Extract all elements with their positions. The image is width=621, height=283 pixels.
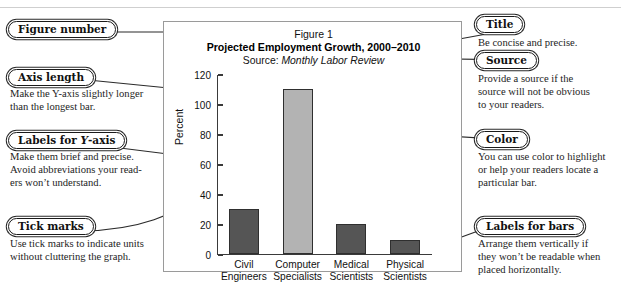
- callout-labels-y-post: -axis: [88, 134, 115, 146]
- y-tick-label: 40: [200, 190, 211, 201]
- note-labels-for-bars: Arrange them vertically if they won’t be…: [478, 237, 620, 277]
- y-tick-label: 100: [194, 100, 211, 111]
- note-labels-for-y-axis: Make them brief and precise. Avoid abbre…: [10, 150, 166, 190]
- callout-labels-for-y-axis[interactable]: Labels for Y-axis: [8, 132, 125, 149]
- note-title: Be concise and precise.: [478, 36, 618, 49]
- callout-figure-number[interactable]: Figure number: [8, 21, 116, 38]
- callout-tick-marks[interactable]: Tick marks: [8, 218, 94, 235]
- note-color: You can use color to highlight or help y…: [478, 150, 621, 190]
- x-axis-label: Civil Engineers: [217, 259, 271, 283]
- note-source: Provide a source if the source will not …: [478, 72, 618, 112]
- y-tick-mark: [218, 164, 223, 165]
- x-axis-label: Physical Scientists: [378, 259, 432, 283]
- y-tick-mark: [218, 104, 223, 105]
- callout-axis-length[interactable]: Axis length: [8, 69, 94, 86]
- figure-panel: Figure 1 Projected Employment Growth, 20…: [163, 21, 462, 272]
- bar-physical-scientists[interactable]: [390, 240, 420, 254]
- note-axis-length: Make the Y-axis slightly longer than the…: [10, 87, 160, 113]
- y-tick-label: 20: [200, 220, 211, 231]
- y-axis-title: Percent: [173, 109, 185, 145]
- y-tick-mark: [218, 74, 223, 75]
- bar-computer-specialists[interactable]: [283, 89, 313, 254]
- bar-chart-plot-area: Percent 020406080100120 Civil EngineersC…: [217, 75, 432, 255]
- callout-color[interactable]: Color: [476, 131, 528, 148]
- y-tick-mark: [218, 194, 223, 195]
- bar-medical-scientists[interactable]: [336, 224, 366, 254]
- bar-civil-engineers[interactable]: [229, 209, 259, 254]
- callout-title[interactable]: Title: [476, 16, 523, 33]
- figure-title: Projected Employment Growth, 2000–2010: [164, 41, 463, 53]
- x-axis-label: Medical Scientists: [325, 259, 379, 283]
- y-tick-label: 120: [194, 70, 211, 81]
- y-tick-label: 0: [205, 250, 211, 261]
- figure-number-text: Figure 1: [164, 28, 463, 40]
- note-tick-marks: Use tick marks to indicate units without…: [10, 237, 170, 263]
- y-tick-mark: [218, 134, 223, 135]
- top-divider-rule: [0, 7, 621, 8]
- y-tick-label: 60: [200, 160, 211, 171]
- figure-annotation-diagram: Figure number Axis length Make the Y-axi…: [0, 0, 621, 283]
- y-tick-mark: [218, 224, 223, 225]
- figure-source: Source: Monthly Labor Review: [164, 55, 463, 66]
- figure-source-name: Monthly Labor Review: [281, 55, 384, 66]
- callout-labels-for-bars[interactable]: Labels for bars: [476, 218, 584, 235]
- callout-labels-y-italic: Y: [80, 134, 88, 146]
- callout-labels-y-pre: Labels for: [18, 134, 80, 146]
- x-axis-line: [217, 254, 432, 255]
- y-tick-label: 80: [200, 130, 211, 141]
- y-tick-mark: [218, 254, 223, 255]
- x-axis-label: Computer Specialists: [271, 259, 325, 283]
- callout-source[interactable]: Source: [476, 52, 537, 69]
- figure-source-label: Source:: [243, 55, 282, 66]
